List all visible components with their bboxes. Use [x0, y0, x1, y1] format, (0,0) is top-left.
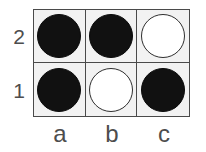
board-cell-c1[interactable]: [137, 63, 189, 116]
row-label-1: 1: [6, 80, 32, 101]
column-label-b: b: [86, 122, 138, 146]
black-stone-c1[interactable]: [141, 68, 185, 112]
row-label-2: 2: [6, 26, 32, 47]
black-stone-b2[interactable]: [89, 14, 133, 58]
game-board-grid: [33, 9, 190, 117]
black-stone-a2[interactable]: [37, 14, 81, 58]
board-cell-c2[interactable]: [137, 10, 189, 63]
column-label-a: a: [34, 122, 86, 146]
white-stone-c2[interactable]: [141, 14, 185, 58]
board-cell-b1[interactable]: [86, 63, 138, 116]
black-stone-a1[interactable]: [37, 68, 81, 112]
white-stone-b1[interactable]: [89, 68, 133, 112]
board-cell-b2[interactable]: [86, 10, 138, 63]
board-diagram-screenshot: 2 1 a b c: [0, 0, 206, 152]
board-cell-a1[interactable]: [34, 63, 86, 116]
board-cell-a2[interactable]: [34, 10, 86, 63]
column-label-c: c: [138, 122, 190, 146]
